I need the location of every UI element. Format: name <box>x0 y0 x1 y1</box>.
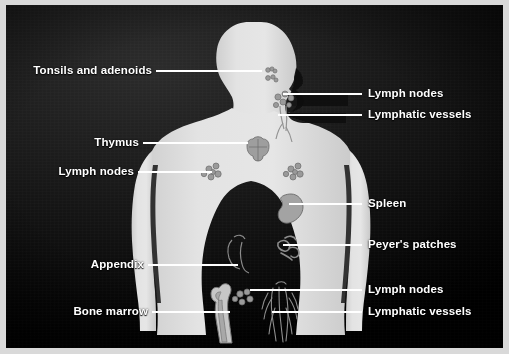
label-bone-marrow: Bone marrow <box>73 305 148 317</box>
label-tonsils-and-adenoids: Tonsils and adenoids <box>33 64 152 76</box>
label-thymus: Thymus <box>94 136 139 148</box>
label-lymphatic-vessels-upper: Lymphatic vessels <box>368 108 472 120</box>
diagram-canvas: Tonsils and adenoidsThymusLymph nodesApp… <box>6 5 503 348</box>
label-spleen: Spleen <box>368 197 406 209</box>
figure-frame: Tonsils and adenoidsThymusLymph nodesApp… <box>0 0 509 354</box>
label-lymph-nodes-cervical: Lymph nodes <box>368 87 443 99</box>
label-lymphatic-vessels-lower: Lymphatic vessels <box>368 305 472 317</box>
label-appendix: Appendix <box>91 258 144 270</box>
label-peyers-patches: Peyer's patches <box>368 238 457 250</box>
label-lymph-nodes-inguinal: Lymph nodes <box>368 283 443 295</box>
label-lymph-nodes-axillary: Lymph nodes <box>59 165 134 177</box>
